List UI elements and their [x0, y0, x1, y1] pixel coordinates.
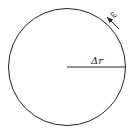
diagram-canvas: Δr ω: [0, 0, 132, 136]
radius-label: Δr: [90, 55, 104, 66]
